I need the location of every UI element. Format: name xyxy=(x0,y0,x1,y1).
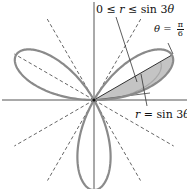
curve-label-theta: θ xyxy=(183,108,187,121)
fraction-denominator: 6 xyxy=(177,30,184,38)
theta-label: θ = π6 xyxy=(154,21,184,38)
pi-over-6-fraction: π6 xyxy=(177,21,184,38)
dashed-line-210deg xyxy=(14,100,94,146)
region-label-mid: ≤ sin 3 xyxy=(124,3,167,16)
region-label-leader xyxy=(116,17,137,82)
dashed-line-330deg xyxy=(94,100,174,146)
origin-point xyxy=(92,98,95,101)
theta-label-eq: = xyxy=(160,23,175,34)
region-label-theta: θ xyxy=(167,3,174,16)
curve-label-eq: = sin 3 xyxy=(140,108,183,121)
region-label: 0 ≤ r ≤ sin 3θ xyxy=(96,4,174,15)
curve-label: r = sin 3θ xyxy=(135,109,187,120)
region-label-prefix: 0 ≤ xyxy=(96,3,119,16)
